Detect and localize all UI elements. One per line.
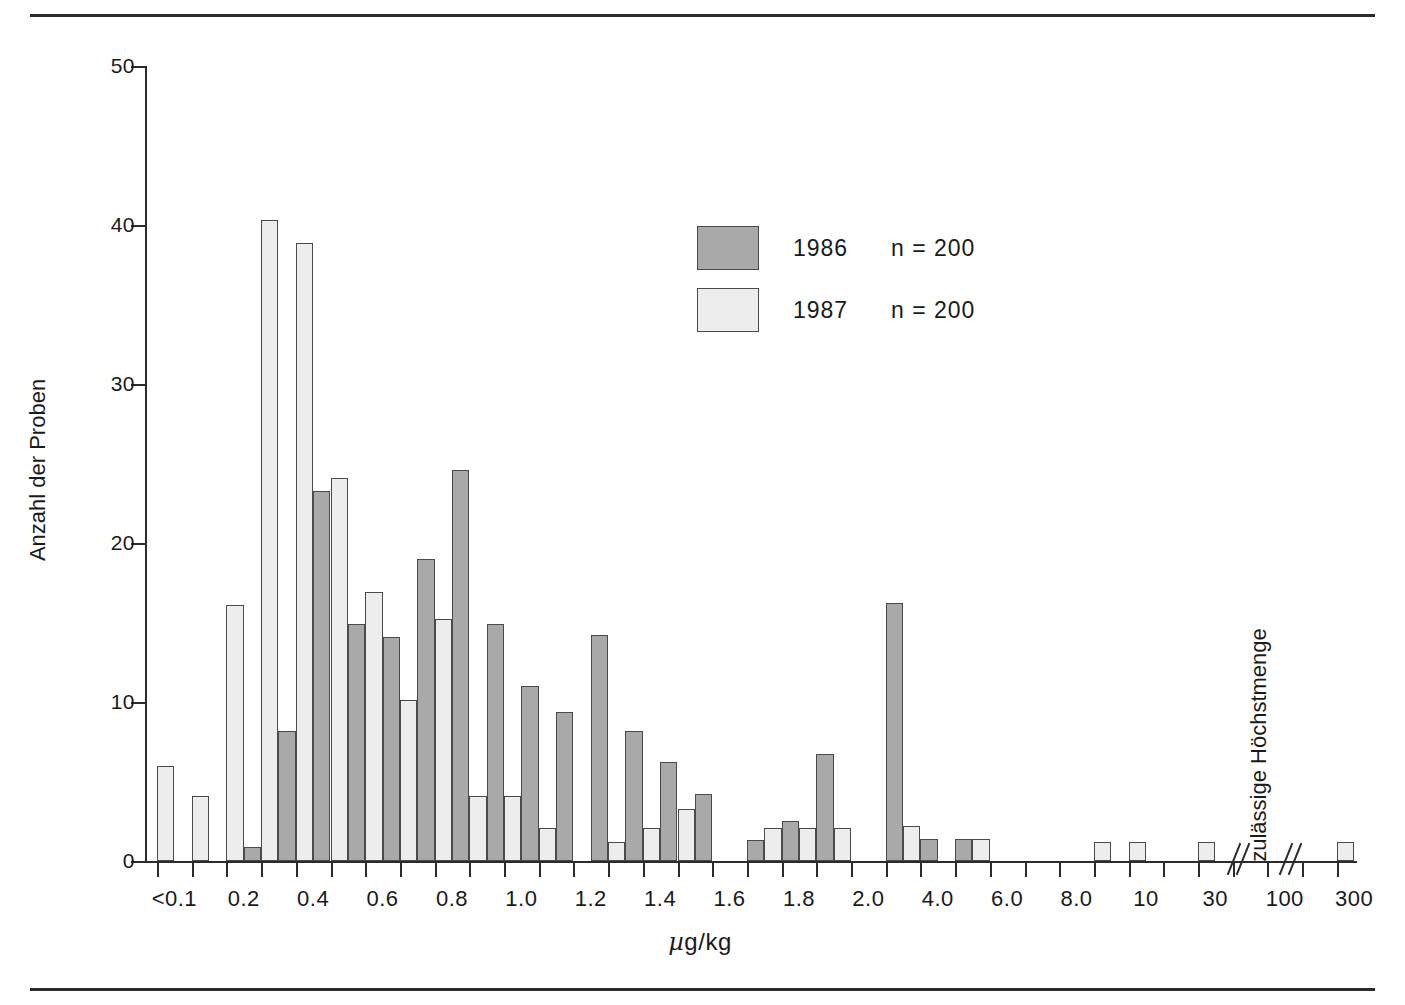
x-tick bbox=[261, 863, 263, 877]
legend-n-1987: n = 200 bbox=[891, 297, 975, 324]
bar-1986-0.55 bbox=[313, 491, 330, 861]
x-tick bbox=[955, 863, 957, 877]
x-tick bbox=[435, 863, 437, 877]
legend-swatch-1987 bbox=[697, 288, 759, 332]
bar-1986-0.65 bbox=[348, 624, 365, 861]
bar-1987-1.85 bbox=[764, 828, 781, 861]
mu-glyph: µ bbox=[668, 928, 684, 956]
bar-1986-2.0 bbox=[816, 754, 833, 861]
x-tick-label: 0.6 bbox=[367, 886, 399, 912]
x-tick bbox=[226, 863, 228, 877]
x-tick bbox=[886, 863, 888, 877]
x-tick bbox=[747, 863, 749, 877]
x-tick-label: 1.2 bbox=[575, 886, 607, 912]
bar-1987-2.05 bbox=[834, 828, 851, 861]
bar-1986-1.15 bbox=[521, 686, 538, 861]
x-tick bbox=[712, 863, 714, 877]
x-tick bbox=[331, 863, 333, 877]
legend-label-1987: 1987 bbox=[793, 297, 865, 324]
page-bottom-rule bbox=[30, 988, 1375, 991]
x-tick bbox=[539, 863, 541, 877]
bar-1987-300 bbox=[1337, 842, 1354, 861]
bar-1987-1.6 bbox=[678, 809, 695, 861]
x-tick-label: 1.6 bbox=[714, 886, 746, 912]
bar-1987-10 bbox=[1129, 842, 1146, 861]
bar-1986-1.05 bbox=[487, 624, 504, 861]
y-axis-line bbox=[145, 66, 147, 861]
y-tick-label: 40 bbox=[111, 213, 135, 237]
x-tick bbox=[678, 863, 680, 877]
bar-1987-1.4 bbox=[608, 842, 625, 861]
x-tick-label: 1.4 bbox=[644, 886, 676, 912]
bar-1986-1.35 bbox=[591, 635, 608, 861]
x-tick bbox=[990, 863, 992, 877]
y-tick-label: 10 bbox=[111, 690, 135, 714]
max-level-annotation: zulässige Höchstmenge bbox=[1246, 628, 1272, 862]
bar-1986-1.9 bbox=[782, 821, 799, 861]
figure-page: Anzahl der Proben 01020304050 <0.10.20.4… bbox=[0, 0, 1405, 1005]
bar-1986-1.8 bbox=[747, 840, 764, 861]
x-tick-label: 4.0 bbox=[922, 886, 954, 912]
bar-1986-0.45 bbox=[278, 731, 295, 861]
x-tick bbox=[365, 863, 367, 877]
bar-1987-9.0 bbox=[1094, 842, 1111, 861]
x-tick-label: 0.8 bbox=[436, 886, 468, 912]
bar-1987-0.4 bbox=[261, 220, 278, 861]
x-tick bbox=[400, 863, 402, 877]
bar-1987-0.9 bbox=[435, 619, 452, 861]
x-tick-label: 1.8 bbox=[783, 886, 815, 912]
x-tick bbox=[573, 863, 575, 877]
x-tick bbox=[782, 863, 784, 877]
x-tick-label: 0.4 bbox=[297, 886, 329, 912]
bar-1986-1.45 bbox=[625, 731, 642, 861]
x-tick bbox=[608, 863, 610, 877]
page-top-rule bbox=[30, 14, 1375, 17]
bar-1987-0.3 bbox=[226, 605, 243, 861]
x-tick bbox=[1267, 863, 1269, 877]
x-tick-label: 2.0 bbox=[852, 886, 884, 912]
bar-1986-1.55 bbox=[660, 762, 677, 861]
y-tick-label: 50 bbox=[111, 54, 135, 78]
x-tick-label: 100 bbox=[1266, 886, 1304, 912]
x-tick bbox=[1129, 863, 1131, 877]
bar-1987-3.5 bbox=[903, 826, 920, 861]
x-tick-label: 30 bbox=[1203, 886, 1228, 912]
bar-1987-0.5 bbox=[296, 243, 313, 862]
x-tick bbox=[1163, 863, 1165, 877]
axis-break-mark bbox=[1281, 842, 1303, 876]
x-tick-label: 6.0 bbox=[991, 886, 1023, 912]
x-tick-label: 10 bbox=[1133, 886, 1158, 912]
x-tick bbox=[1198, 863, 1200, 877]
x-tick bbox=[504, 863, 506, 877]
bar-1987-1.2 bbox=[539, 828, 556, 861]
bar-1986-0.95 bbox=[452, 470, 469, 861]
bar-1987-0.2 bbox=[192, 796, 209, 861]
legend-item: 1986 n = 200 bbox=[697, 224, 975, 272]
x-tick bbox=[296, 863, 298, 877]
y-tick-label: 30 bbox=[111, 372, 135, 396]
bar-1986-0.35 bbox=[244, 847, 261, 861]
x-tick bbox=[851, 863, 853, 877]
bar-1986-3.0 bbox=[886, 603, 903, 861]
legend-n-1986: n = 200 bbox=[891, 235, 975, 262]
y-tick-label: 20 bbox=[111, 531, 135, 555]
x-tick bbox=[192, 863, 194, 877]
x-tick-label: <0.1 bbox=[152, 886, 197, 912]
plot-area: 01020304050 <0.10.20.40.60.81.01.21.41.6… bbox=[145, 66, 1360, 861]
y-tick-label: 0 bbox=[123, 849, 135, 873]
x-axis-title-text: g/kg bbox=[684, 928, 731, 955]
bar-1986-0.75 bbox=[383, 637, 400, 861]
legend-label-1986: 1986 bbox=[793, 235, 865, 262]
bar-1986-1.25 bbox=[556, 712, 573, 861]
bar-1987-1.95 bbox=[799, 828, 816, 861]
x-tick-label: 300 bbox=[1335, 886, 1373, 912]
bar-1986-5.0 bbox=[955, 839, 972, 861]
x-tick-label: 8.0 bbox=[1061, 886, 1093, 912]
bar-1987-1.0 bbox=[469, 796, 486, 861]
bar-1987-30 bbox=[1198, 842, 1215, 861]
bar-1987-0.6 bbox=[331, 478, 348, 861]
x-axis-title: µg/kg bbox=[668, 928, 731, 956]
bar-1987-<0.1 bbox=[157, 766, 174, 861]
legend-swatch-1986 bbox=[697, 226, 759, 270]
x-tick bbox=[1094, 863, 1096, 877]
